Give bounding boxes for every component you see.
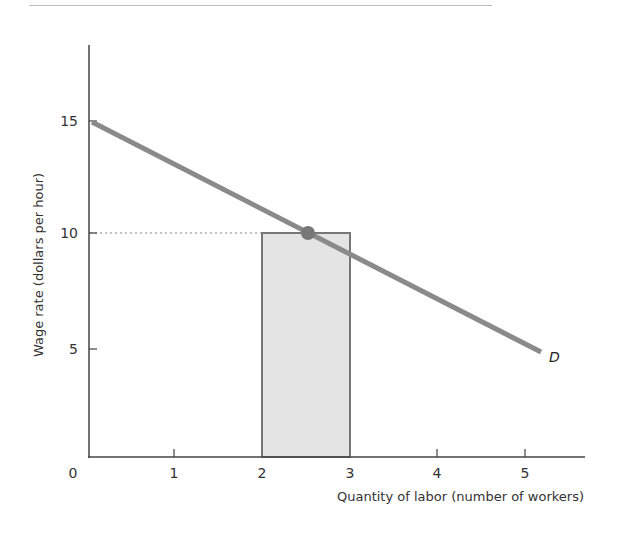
- equilibrium-point: [301, 226, 315, 240]
- x-tick-label: 3: [346, 465, 355, 481]
- y-tick-label: 15: [60, 113, 78, 129]
- y-tick-label: 5: [69, 341, 78, 357]
- x-tick-label: 0: [69, 465, 78, 481]
- chart: 15 10 5 0 1 2 3 4 5 Quantity of labor (n…: [0, 0, 629, 534]
- x-tick-label: 2: [258, 465, 267, 481]
- x-axis-title: Quantity of labor (number of workers): [337, 489, 584, 504]
- x-tick-label: 1: [170, 465, 179, 481]
- y-tick-label: 10: [60, 225, 78, 241]
- demand-curve-label: D: [549, 349, 560, 365]
- x-tick-label: 5: [521, 465, 530, 481]
- shaded-bar: [262, 233, 350, 457]
- x-tick-label: 4: [433, 465, 442, 481]
- y-axis-title: Wage rate (dollars per hour): [31, 173, 46, 357]
